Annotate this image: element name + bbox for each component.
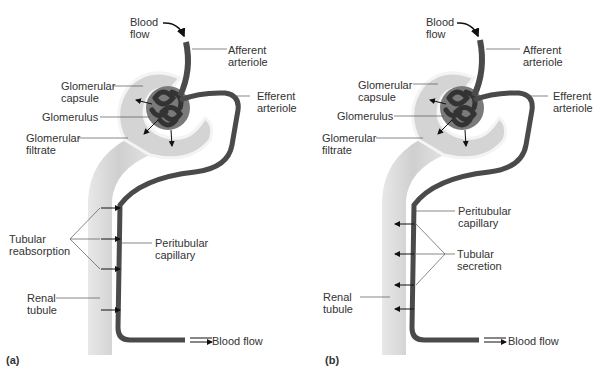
label-blood-flow-out-b: Blood flow [508, 335, 559, 347]
label-glomerular-filtrate-a: Glomerular filtrate [26, 132, 80, 156]
nephron-diagram [0, 0, 597, 373]
label-renal-tubule-a: Renal tubule [27, 292, 57, 316]
label-afferent-arteriole-a: Afferent arteriole [228, 44, 268, 68]
panel-tag-b: (b) [325, 354, 339, 366]
label-blood-flow-in-a: Blood flow [130, 16, 158, 40]
label-peritubular-capillary-a: Peritubular capillary [155, 237, 208, 261]
panel-b [360, 23, 548, 355]
label-tubular-secretion: Tubular secretion [457, 248, 502, 272]
label-glomerular-filtrate-b: Glomerular filtrate [322, 132, 376, 156]
panel-tag-a: (a) [6, 354, 19, 366]
label-blood-flow-in-b: Blood flow [426, 16, 454, 40]
label-tubular-reabsorption: Tubular reabsorption [9, 233, 70, 257]
label-glomerular-capsule-b: Glomerular capsule [358, 79, 412, 103]
label-afferent-arteriole-b: Afferent arteriole [523, 44, 563, 68]
label-peritubular-capillary-b: Peritubular capillary [458, 205, 511, 229]
label-efferent-arteriole-a: Efferent arteriole [257, 90, 297, 114]
label-efferent-arteriole-b: Efferent arteriole [553, 90, 593, 114]
panel-a [56, 23, 250, 355]
afferent-arteriole [180, 42, 188, 96]
label-renal-tubule-b: Renal tubule [323, 291, 353, 315]
label-glomerular-capsule-a: Glomerular capsule [61, 80, 115, 104]
label-glomerulus-b: Glomerulus [337, 110, 393, 122]
label-blood-flow-out-a: Blood flow [212, 335, 263, 347]
label-glomerulus-a: Glomerulus [42, 111, 98, 123]
afferent-arteriole [474, 40, 482, 96]
